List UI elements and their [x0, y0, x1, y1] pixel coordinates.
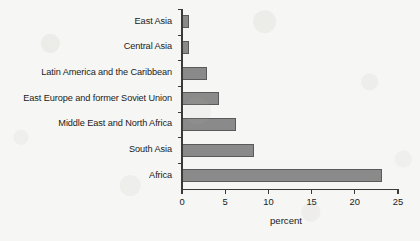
- x-axis-line: [181, 189, 398, 190]
- category-label: Africa: [149, 171, 172, 180]
- bar: [182, 67, 207, 80]
- x-axis-tick-label: 25: [393, 197, 403, 206]
- bar: [182, 118, 236, 131]
- bar-chart: East AsiaCentral AsiaLatin America and t…: [0, 0, 420, 241]
- category-label: Central Asia: [124, 43, 172, 52]
- y-axis-tick: [178, 86, 183, 87]
- bar: [182, 15, 189, 28]
- bar: [182, 169, 382, 182]
- x-axis-title: percent: [270, 216, 302, 226]
- y-axis-tick: [178, 9, 183, 10]
- category-label: South Asia: [129, 145, 172, 154]
- x-axis-tick-label: 5: [223, 197, 228, 206]
- bar: [182, 144, 254, 157]
- bar: [182, 92, 219, 105]
- x-axis-tick-label: 15: [306, 197, 316, 206]
- x-axis-tick-label: 0: [179, 197, 184, 206]
- x-axis-tick: [268, 190, 269, 195]
- x-axis-tick: [181, 190, 182, 195]
- category-label: Middle East and North Africa: [58, 120, 172, 129]
- x-axis-tick: [354, 190, 355, 195]
- y-axis-tick: [178, 35, 183, 36]
- x-axis-tick: [311, 190, 312, 195]
- x-axis-tick-label: 20: [350, 197, 360, 206]
- y-axis-tick: [178, 60, 183, 61]
- x-axis-tick-label: 10: [263, 197, 273, 206]
- y-axis-tick: [178, 137, 183, 138]
- category-label: East Europe and former Soviet Union: [23, 94, 172, 103]
- category-label: East Asia: [135, 17, 172, 26]
- x-axis-tick: [397, 190, 398, 195]
- x-axis-tick: [225, 190, 226, 195]
- category-label: Latin America and the Caribbean: [41, 68, 172, 77]
- y-axis-tick: [178, 163, 183, 164]
- y-axis-tick: [178, 112, 183, 113]
- bar: [182, 41, 189, 54]
